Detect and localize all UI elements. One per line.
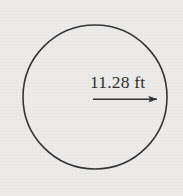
radius-dimension-label: 11.28 ft [90,72,145,92]
geometry-figure: 11.28 ft [0,0,183,196]
figure-background [0,0,183,196]
circle-diagram-canvas: 11.28 ft [0,0,183,196]
